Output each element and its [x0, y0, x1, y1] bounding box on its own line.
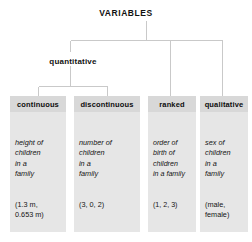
example-text-continuous: height of children in a family: [15, 138, 62, 180]
example-text-discontinuous: number of children in a family: [79, 138, 136, 180]
category-header-qualitative: qualitative: [200, 96, 248, 112]
example-line: height of: [15, 138, 62, 148]
diagram-title: VARIABLES: [99, 8, 152, 18]
example-line: in a: [205, 159, 244, 169]
category-header-ranked: ranked: [148, 96, 196, 112]
example-line: children: [15, 148, 62, 158]
category-column-ranked: ranked order of birth of children in a f…: [148, 96, 196, 232]
example-line: family: [205, 169, 244, 179]
example-line: in a: [79, 159, 136, 169]
example-line: family: [15, 169, 62, 179]
category-body-continuous: height of children in a family (1.3 m, 0…: [10, 112, 66, 232]
example-line: children: [205, 148, 244, 158]
example-line: number of: [79, 138, 136, 148]
example-line: birth of: [153, 148, 192, 158]
node-quantitative: quantitative: [49, 57, 96, 66]
category-body-qualitative: sex of children in a family (male, femal…: [200, 112, 248, 232]
category-body-ranked: order of birth of children in a family (…: [148, 112, 196, 232]
example-text-qualitative: sex of children in a family: [205, 138, 244, 180]
example-values-ranked: (1, 2, 3): [153, 200, 192, 210]
example-line: children: [79, 148, 136, 158]
category-column-continuous: continuous height of children in a famil…: [10, 96, 66, 232]
example-values-continuous: (1.3 m, 0.653 m): [15, 200, 62, 221]
value-line: (male,: [205, 200, 244, 210]
value-line: (3, 0, 2): [79, 200, 136, 210]
category-column-qualitative: qualitative sex of children in a family …: [200, 96, 248, 232]
example-text-ranked: order of birth of children in a family: [153, 138, 192, 180]
example-values-qualitative: (male, female): [205, 200, 244, 221]
value-line: 0.653 m): [15, 210, 62, 220]
example-line: in a family: [153, 169, 192, 179]
category-body-discontinuous: number of children in a family (3, 0, 2): [74, 112, 140, 232]
example-line: in a: [15, 159, 62, 169]
category-header-discontinuous: discontinuous: [74, 96, 140, 112]
value-line: (1, 2, 3): [153, 200, 192, 210]
value-line: (1.3 m,: [15, 200, 62, 210]
example-line: order of: [153, 138, 192, 148]
example-line: sex of: [205, 138, 244, 148]
example-values-discontinuous: (3, 0, 2): [79, 200, 136, 210]
category-header-continuous: continuous: [10, 96, 66, 112]
value-line: female): [205, 210, 244, 220]
variables-classification-diagram: VARIABLES quantitative continuous height…: [0, 0, 252, 242]
example-line: family: [79, 169, 136, 179]
category-column-discontinuous: discontinuous number of children in a fa…: [74, 96, 140, 232]
example-line: children: [153, 159, 192, 169]
